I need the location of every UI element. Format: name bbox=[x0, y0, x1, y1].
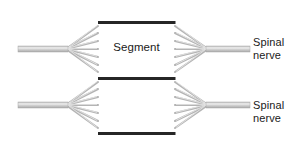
spinal-nerve-label-top: Spinal nerve bbox=[253, 36, 284, 61]
lower-left-rootlet-fan-highlight bbox=[67, 82, 97, 128]
upper-right-nerve-trunk bbox=[206, 46, 250, 52]
lower-right-rootlet-fan-highlight bbox=[176, 82, 207, 128]
segment-label: Segment bbox=[98, 41, 175, 54]
upper-left-nerve-trunk bbox=[18, 46, 68, 52]
upper-right-rootlet-fan bbox=[175, 26, 208, 72]
upper-left-rootlet-fan-highlight bbox=[67, 26, 97, 72]
lower-right-rootlet-fan bbox=[175, 82, 208, 128]
lower-left-nerve-trunk bbox=[18, 102, 68, 108]
spinal-segment-diagram bbox=[0, 0, 298, 162]
lower-right-nerve-trunk bbox=[206, 102, 250, 108]
spinal-cord-frame bbox=[98, 4, 176, 157]
spinal-nerve-label-bottom: Spinal nerve bbox=[253, 99, 284, 124]
upper-right-rootlet-fan-highlight bbox=[176, 26, 207, 72]
upper-left-rootlet-fan bbox=[66, 26, 98, 72]
lower-nerve-row bbox=[18, 82, 250, 128]
lower-left-rootlet-fan bbox=[66, 82, 98, 128]
diagram-canvas: Segment Spinal nerve Spinal nerve bbox=[0, 0, 298, 162]
